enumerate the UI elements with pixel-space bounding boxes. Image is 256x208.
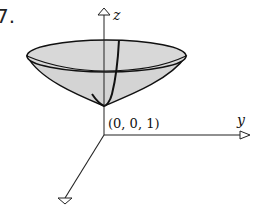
x-axis-arrow-icon <box>58 198 72 204</box>
vertex-point-label: (0, 0, 1) <box>108 116 160 131</box>
x-axis <box>65 135 104 198</box>
paraboloid-rim <box>27 40 186 72</box>
y-axis-label: y <box>236 112 246 128</box>
y-axis-arrow-icon <box>240 131 250 139</box>
z-axis-arrow-icon <box>98 8 110 15</box>
paraboloid-diagram: z y (0, 0, 1) <box>0 0 256 208</box>
z-axis-label: z <box>112 7 121 23</box>
